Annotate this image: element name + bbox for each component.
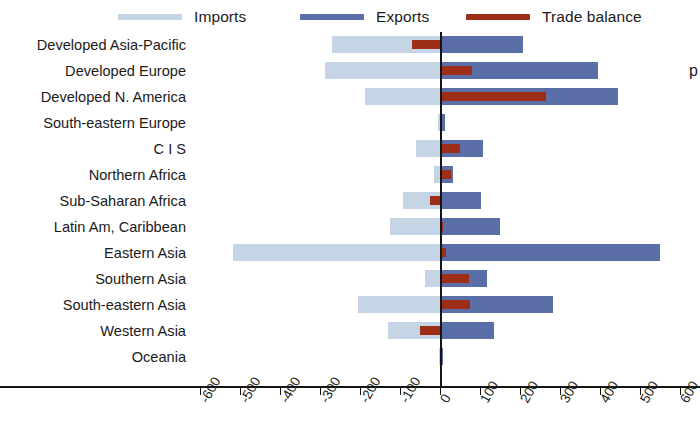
bar-group <box>0 32 700 58</box>
bar-group <box>0 58 700 84</box>
bar-imports <box>365 88 441 105</box>
legend-item-exports: Exports <box>300 4 429 30</box>
bar-trade-balance <box>441 170 451 179</box>
chart-row: Eastern Asia <box>0 240 700 266</box>
exports-swatch-icon <box>300 14 364 20</box>
chart-row: C I S <box>0 136 700 162</box>
bar-trade-balance <box>441 66 472 75</box>
side-note-text: p <box>689 62 698 80</box>
bar-trade-balance <box>441 300 470 309</box>
legend-label-trade-balance: Trade balance <box>542 8 642 26</box>
bar-group <box>0 84 700 110</box>
bar-trade-balance <box>441 248 447 257</box>
bar-trade-balance <box>420 326 441 335</box>
chart-row: South-eastern Asia <box>0 292 700 318</box>
chart-row: Oceania <box>0 344 700 370</box>
chart-row: Latin Am, Caribbean <box>0 214 700 240</box>
legend-item-imports: Imports <box>118 4 246 30</box>
bar-group <box>0 240 700 266</box>
legend-item-trade-balance: Trade balance <box>466 4 642 30</box>
legend-label-imports: Imports <box>194 8 246 26</box>
bar-imports <box>233 244 441 261</box>
imports-swatch-icon <box>118 14 182 20</box>
chart-row: Developed Europe <box>0 58 700 84</box>
bar-group <box>0 344 700 370</box>
chart-row: South-eastern Europe <box>0 110 700 136</box>
bar-exports <box>441 192 481 209</box>
bar-group <box>0 136 700 162</box>
bar-imports <box>425 270 441 287</box>
chart-row: Northern Africa <box>0 162 700 188</box>
bar-group <box>0 266 700 292</box>
bar-trade-balance <box>441 274 469 283</box>
x-axis-tick-label: 0 <box>437 391 454 405</box>
legend-label-exports: Exports <box>376 8 429 26</box>
bar-imports <box>325 62 441 79</box>
bar-trade-balance <box>412 40 441 49</box>
trade-balance-chart: Imports Exports Trade balance Developed … <box>0 0 700 442</box>
bar-imports <box>416 140 441 157</box>
bar-group <box>0 318 700 344</box>
chart-row: Developed Asia-Pacific <box>0 32 700 58</box>
bar-group <box>0 188 700 214</box>
zero-axis-line <box>440 32 442 388</box>
plot-area: Developed Asia-PacificDeveloped EuropeDe… <box>0 32 700 384</box>
x-axis-line <box>0 386 700 388</box>
bar-exports <box>441 244 660 261</box>
chart-row: Developed N. America <box>0 84 700 110</box>
bar-trade-balance <box>441 92 546 101</box>
bar-group <box>0 214 700 240</box>
bar-group <box>0 292 700 318</box>
x-axis: -600-500-400-300-200-1000100200300400500… <box>0 386 700 442</box>
bar-imports <box>358 296 441 313</box>
bar-imports <box>390 218 441 235</box>
chart-row: Southern Asia <box>0 266 700 292</box>
chart-legend: Imports Exports Trade balance <box>0 4 700 30</box>
bar-exports <box>441 36 523 53</box>
chart-row: Western Asia <box>0 318 700 344</box>
bar-group <box>0 110 700 136</box>
bar-exports <box>441 218 500 235</box>
bar-trade-balance <box>441 144 460 153</box>
chart-row: Sub-Saharan Africa <box>0 188 700 214</box>
bar-group <box>0 162 700 188</box>
bar-exports <box>441 322 494 339</box>
trade-balance-swatch-icon <box>466 14 530 20</box>
